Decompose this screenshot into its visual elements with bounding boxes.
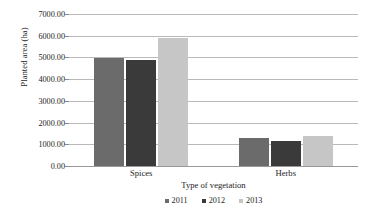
legend-entry-2012[interactable]: 2012 [202,197,225,205]
legend-swatch-icon-2012 [202,199,206,203]
bar-spices-2011[interactable] [94,58,124,166]
plot-area [69,14,358,166]
x-axis-title: Type of vegetation [69,180,358,190]
legend: 201120122013 [69,197,358,205]
y-tick-label: 2000.00 [5,118,65,127]
gridline-0 [69,166,358,167]
legend-entry-2011[interactable]: 2011 [165,197,188,205]
bars-layer [69,14,358,166]
legend-entry-2013[interactable]: 2013 [239,197,262,205]
bar-herbs-2011[interactable] [239,138,269,166]
legend-label-2013: 2013 [246,197,262,205]
bar-group-spices [94,14,188,166]
bar-group-herbs [239,14,333,166]
bar-herbs-2013[interactable] [303,136,333,166]
bar-chart: Planted area (ha) 7000.006000.005000.004… [0,0,367,217]
legend-swatch-icon-2011 [165,199,169,203]
legend-label-2011: 2011 [172,197,188,205]
x-category-label-spices: Spices [130,168,152,178]
x-category-label-herbs: Herbs [275,168,296,178]
bar-spices-2013[interactable] [158,38,188,166]
y-tick-label: 3000.00 [5,96,65,105]
y-tick-label: 4000.00 [5,75,65,84]
bar-spices-2012[interactable] [126,60,156,166]
legend-swatch-icon-2013 [239,199,243,203]
bar-herbs-2012[interactable] [271,141,301,166]
legend-label-2012: 2012 [209,197,225,205]
y-tick-label: 7000.00 [5,10,65,19]
y-tick-label: 5000.00 [5,53,65,62]
y-tick-label: 1000.00 [5,140,65,149]
y-tick-label: 6000.00 [5,31,65,40]
y-tick-mark [65,166,69,167]
y-tick-label: 0.00 [5,162,65,171]
